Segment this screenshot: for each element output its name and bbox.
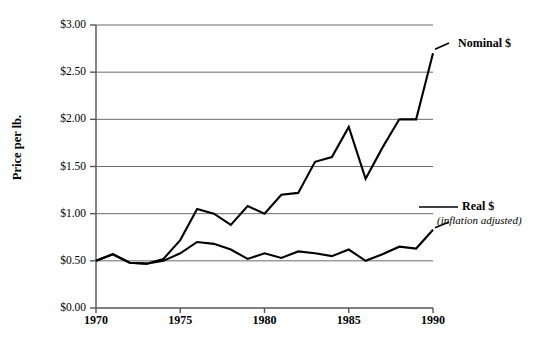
annotation-leader-lines [419, 43, 458, 228]
price-per-lb-line-chart: Price per lb. $0.00$0.50$1.00$1.50$2.00$… [0, 0, 546, 337]
series-line-real [96, 230, 433, 264]
leader-line-nominal [435, 43, 449, 49]
series-label-nominal: Nominal $ [458, 36, 511, 51]
gridlines [96, 25, 433, 261]
series-sublabel-real: (inflation adjusted) [437, 214, 522, 226]
series-line-nominal [96, 53, 433, 263]
series-label-real: Real $ [462, 199, 494, 214]
tick-marks [90, 25, 433, 313]
data-series-layer [96, 53, 433, 263]
